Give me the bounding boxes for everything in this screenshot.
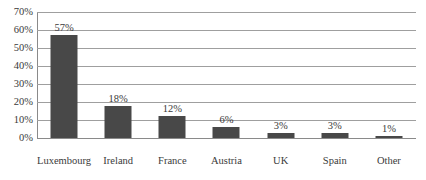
bar[interactable] bbox=[51, 35, 78, 138]
x-axis-category-label: Luxembourg bbox=[37, 155, 91, 167]
y-axis-tick-label: 0% bbox=[0, 133, 33, 144]
x-axis-category-label: Ireland bbox=[91, 155, 145, 167]
y-axis-tick-label: 50% bbox=[0, 43, 33, 54]
x-axis-category-label: Other bbox=[362, 155, 416, 167]
y-axis-tick-labels: 0%10%20%30%40%50%60%70% bbox=[0, 12, 34, 138]
plot-area: 57%Luxembourg18%Ireland12%France6%Austri… bbox=[37, 12, 416, 138]
x-axis-baseline bbox=[37, 138, 416, 139]
bar-value-label: 57% bbox=[54, 22, 73, 33]
bar-chart: 0%10%20%30%40%50%60%70% 57%Luxembourg18%… bbox=[0, 0, 426, 180]
bar-group: 1% bbox=[362, 12, 416, 138]
bar-value-label: 12% bbox=[163, 103, 182, 114]
bar-group: 57% bbox=[37, 12, 91, 138]
bar-group: 6% bbox=[199, 12, 253, 138]
bar[interactable] bbox=[105, 106, 132, 138]
y-axis-tick-label: 70% bbox=[0, 7, 33, 18]
x-axis-category-label: Austria bbox=[199, 155, 253, 167]
bar[interactable] bbox=[321, 133, 348, 138]
bar-value-label: 6% bbox=[219, 114, 233, 125]
bar[interactable] bbox=[159, 116, 186, 138]
y-axis-tick-label: 20% bbox=[0, 97, 33, 108]
bar[interactable] bbox=[213, 127, 240, 138]
bar-group: 3% bbox=[308, 12, 362, 138]
x-axis-category-label: Spain bbox=[308, 155, 362, 167]
bar-value-label: 1% bbox=[382, 123, 396, 134]
bar-value-label: 3% bbox=[328, 120, 342, 131]
bar[interactable] bbox=[375, 136, 402, 138]
bar-value-label: 3% bbox=[274, 120, 288, 131]
bar-value-label: 18% bbox=[109, 93, 128, 104]
x-axis-category-label: UK bbox=[254, 155, 308, 167]
bar-group: 3% bbox=[254, 12, 308, 138]
bar-group: 18% bbox=[91, 12, 145, 138]
bar-group: 12% bbox=[145, 12, 199, 138]
y-axis-tick-label: 10% bbox=[0, 115, 33, 126]
x-axis-category-label: France bbox=[145, 155, 199, 167]
y-axis-tick-label: 40% bbox=[0, 61, 33, 72]
bar[interactable] bbox=[267, 133, 294, 138]
y-axis-tick-label: 60% bbox=[0, 25, 33, 36]
y-axis-tick-label: 30% bbox=[0, 79, 33, 90]
